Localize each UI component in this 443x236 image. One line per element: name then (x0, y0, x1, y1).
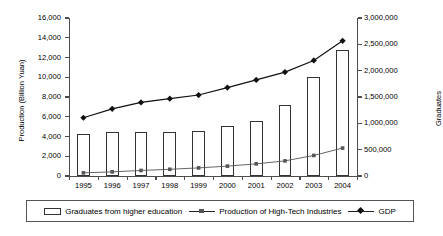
bar-swatch-icon (44, 208, 61, 215)
data-point-marker (226, 164, 230, 168)
data-point-marker (109, 106, 115, 112)
line-series-production (82, 146, 345, 174)
data-point-marker (138, 99, 144, 105)
legend-label-graduates: Graduates from higher education (65, 207, 182, 216)
data-point-marker (110, 170, 114, 174)
data-point-marker (139, 169, 143, 173)
square-line-icon (189, 207, 215, 216)
data-point-marker (341, 146, 345, 150)
data-point-marker (254, 162, 258, 166)
legend-item-graduates: Graduates from higher education (44, 207, 182, 216)
legend-label-production: Production of High-Tech Industries (219, 207, 341, 216)
data-point-marker (167, 96, 173, 102)
data-point-marker (80, 115, 86, 121)
data-point-marker (224, 85, 230, 91)
data-point-marker (312, 154, 316, 158)
legend-item-production: Production of High-Tech Industries (189, 207, 341, 216)
data-point-marker (197, 166, 201, 170)
legend-label-gdp: GDP (378, 207, 395, 216)
data-point-marker (253, 77, 259, 83)
data-point-marker (82, 171, 86, 175)
data-point-marker (196, 92, 202, 98)
data-point-marker (283, 159, 287, 163)
data-point-marker (168, 167, 172, 171)
diamond-line-icon (348, 207, 374, 216)
chart-legend: Graduates from higher education Producti… (26, 200, 414, 222)
legend-item-gdp: GDP (348, 207, 395, 216)
data-point-marker (282, 69, 288, 75)
line-series-gdp (80, 38, 345, 121)
